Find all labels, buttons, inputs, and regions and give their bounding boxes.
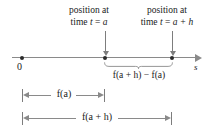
callout-right-line2: time t = a + h: [128, 17, 206, 29]
callout-right-line1: position at: [128, 5, 206, 17]
axis-point-origin: [20, 56, 24, 60]
callout-left-line2: time t = a: [58, 17, 120, 29]
callout-right-time-value: a + h: [173, 17, 194, 27]
measure-cap-right: [171, 112, 172, 125]
callout-label-position-at-time-a: position at time t = a: [58, 5, 120, 28]
callout-right-time-word: time: [141, 17, 160, 27]
measure-arrowhead-right-icon: [98, 92, 104, 98]
difference-expression-label: f(a + h) − f(a): [84, 70, 194, 80]
callout-left-time-word: time: [71, 17, 90, 27]
number-line-diagram: position at time t = a position at time …: [0, 0, 211, 137]
measurement-bar-f-of-a: f(a): [22, 88, 105, 104]
curly-brace-icon: [104, 62, 173, 69]
axis-point-at-time-a: [103, 56, 107, 60]
measurement-label-f-of-a: f(a): [50, 88, 78, 99]
measure-line-right-segment: [118, 118, 165, 119]
measure-cap-right: [104, 89, 105, 102]
pointer-arrow-shaft-right: [172, 31, 173, 53]
axis-point-at-time-a-plus-h: [170, 56, 174, 60]
measure-line-left-segment: [29, 118, 76, 119]
callout-right-equals: =: [163, 17, 173, 27]
callout-left-line1: position at: [58, 5, 120, 17]
axis-variable-label: s: [194, 62, 198, 72]
measurement-bar-f-of-a-plus-h: f(a + h): [22, 111, 172, 127]
axis-origin-label: 0: [17, 61, 22, 72]
callout-label-position-at-time-a-plus-h: position at time t = a + h: [128, 5, 206, 28]
axis-arrowhead-icon: [195, 54, 202, 62]
pointer-arrow-shaft-left: [105, 31, 106, 53]
measure-line-right-segment: [76, 95, 98, 96]
measure-line-left-segment: [29, 95, 51, 96]
callout-left-equals: =: [93, 17, 103, 27]
callout-left-time-value: a: [103, 17, 108, 27]
measurement-label-f-of-a-plus-h: f(a + h): [74, 111, 120, 122]
measure-arrowhead-right-icon: [165, 115, 171, 121]
